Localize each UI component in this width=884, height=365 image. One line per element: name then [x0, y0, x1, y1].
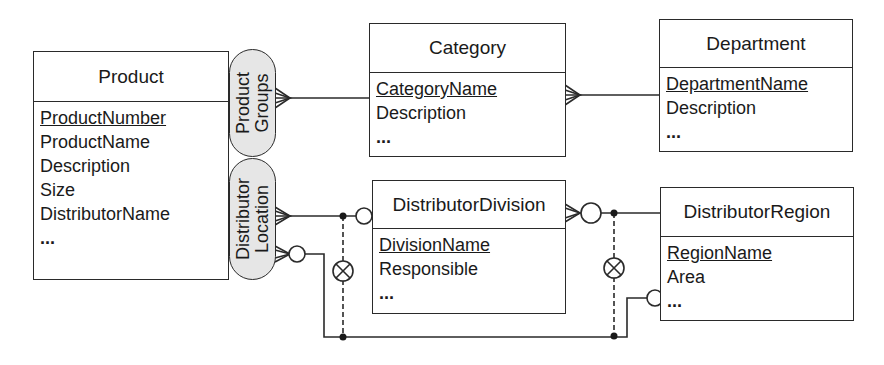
more-attributes: ...: [379, 281, 565, 305]
more-attributes: ...: [667, 289, 853, 313]
exclusive-constraint-right: [604, 213, 624, 335]
category-department-link: [565, 85, 659, 105]
more-attributes: ...: [376, 125, 565, 149]
entity-title: DistributorDivision: [373, 181, 565, 229]
attribute-list: ProductNumber ProductName Description Si…: [34, 102, 228, 250]
relationship-group-distributor-location[interactable]: Distributor Location: [229, 158, 276, 280]
relationship-group-product-groups[interactable]: Product Groups: [229, 49, 276, 157]
attribute: DistributorName: [40, 202, 228, 226]
entity-department[interactable]: Department DepartmentName Description ..…: [659, 19, 853, 152]
more-attributes: ...: [666, 120, 852, 144]
product-category-link: [275, 88, 369, 108]
primary-key-attribute: CategoryName: [376, 77, 565, 101]
attribute: Description: [376, 101, 565, 125]
entity-title: Product: [34, 52, 228, 102]
primary-key-attribute: ProductNumber: [40, 106, 228, 130]
attribute: ProductName: [40, 130, 228, 154]
primary-key-attribute: DivisionName: [379, 233, 565, 257]
attribute: Responsible: [379, 257, 565, 281]
entity-distributor-region[interactable]: DistributorRegion RegionName Area ...: [660, 187, 854, 321]
junction-dot: [340, 334, 347, 341]
attribute-list: DepartmentName Description ...: [660, 68, 852, 144]
attribute: Area: [667, 265, 853, 289]
location-division-link: [275, 207, 372, 225]
group-label: Product Groups: [234, 72, 272, 134]
attribute: Size: [40, 178, 228, 202]
entity-distributor-division[interactable]: DistributorDivision DivisionName Respons…: [372, 180, 566, 314]
entity-category[interactable]: Category CategoryName Description ...: [369, 23, 566, 157]
group-label: Distributor Location: [234, 178, 272, 260]
attribute: Description: [40, 154, 228, 178]
junction-dot: [611, 333, 618, 340]
attribute: Description: [666, 96, 852, 120]
attribute-list: RegionName Area ...: [661, 237, 853, 313]
entity-title: DistributorRegion: [661, 188, 853, 237]
attribute-list: CategoryName Description ...: [370, 73, 565, 149]
entity-title: Department: [660, 20, 852, 68]
entity-product[interactable]: Product ProductNumber ProductName Descri…: [33, 51, 229, 280]
junction-dot: [611, 210, 618, 217]
exclusive-constraint-left: [333, 216, 353, 337]
attribute-list: DivisionName Responsible ...: [373, 229, 565, 305]
junction-dot: [340, 213, 347, 220]
primary-key-attribute: RegionName: [667, 241, 853, 265]
more-attributes: ...: [40, 226, 228, 250]
primary-key-attribute: DepartmentName: [666, 72, 852, 96]
entity-title: Category: [370, 24, 565, 73]
